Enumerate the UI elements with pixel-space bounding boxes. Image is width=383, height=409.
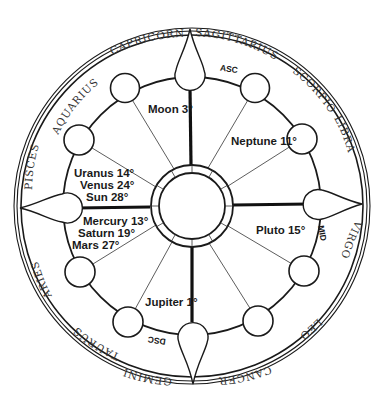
sign-label-taurus: TAURUS <box>70 325 121 363</box>
planet-saturn: Saturn 19° <box>78 227 135 239</box>
ascendant-label: ASC <box>219 63 238 75</box>
sign-label-capricorn: CAPRICORN <box>108 27 185 57</box>
sign-label-pisces: PISCES <box>22 142 41 190</box>
astrology-chart-wheel: SAGITTARIUS CAPRICORN SCORPIO AQUARIUS L… <box>0 0 383 409</box>
ic-cusp-marker <box>20 193 82 223</box>
sign-label-sagittarius: SAGITTARIUS <box>195 26 281 62</box>
house-circle <box>241 74 270 103</box>
center-hub <box>151 165 233 247</box>
house-circle <box>64 125 94 155</box>
midheaven-cusp-marker <box>303 190 362 220</box>
house-circle <box>65 257 95 287</box>
sign-label-virgo: VIRGO <box>339 218 365 260</box>
sign-label-scorpio: SCORPIO <box>291 64 339 115</box>
sign-label-aries: ARIES <box>28 260 54 302</box>
planet-uranus: Uranus 14° <box>74 167 135 179</box>
sign-label-gemini: GEMINI <box>121 367 172 388</box>
planet-mercury: Mercury 13° <box>83 215 149 227</box>
sign-label-leo: LEO <box>298 317 325 343</box>
house-circle <box>289 256 319 286</box>
planet-jupiter: Jupiter 1° <box>145 296 198 308</box>
planet-mars: Mars 27° <box>72 239 120 251</box>
house-circle <box>113 307 143 337</box>
descendant-label: DSC <box>147 335 166 347</box>
planet-neptune: Neptune 11° <box>231 135 297 147</box>
descendant-cusp-marker <box>178 323 208 384</box>
planet-sun: Sun 28° <box>86 191 129 203</box>
house-circle <box>111 74 140 103</box>
planet-pluto: Pluto 15° <box>256 224 306 236</box>
planet-venus: Venus 24° <box>80 179 135 191</box>
house-circle <box>243 306 273 336</box>
planet-moon: Moon 3° <box>148 103 193 115</box>
midheaven-label: MID <box>316 225 329 242</box>
